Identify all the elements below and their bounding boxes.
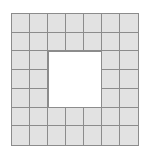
grid-cell-tile — [48, 126, 66, 145]
grid-cell-tile — [102, 70, 120, 89]
grid-cell-tile — [12, 108, 30, 127]
grid-cell-tile — [48, 108, 66, 127]
grid-cell-tile — [120, 89, 138, 108]
grid-cell-tile — [30, 51, 48, 70]
grid-cell-tile — [48, 33, 66, 52]
grid-cell-tile — [12, 70, 30, 89]
grid-cell-tile — [12, 89, 30, 108]
grid-cell-tile — [66, 14, 84, 33]
grid-cell-tile — [66, 108, 84, 127]
grid-cell-hole — [66, 89, 84, 108]
grid-cell-tile — [102, 33, 120, 52]
grid-cell-tile — [84, 108, 102, 127]
grid-cell-hole — [48, 89, 66, 108]
grid-cell-tile — [120, 51, 138, 70]
grid-cell-tile — [30, 89, 48, 108]
grid-cell-tile — [12, 33, 30, 52]
grid-cell-tile — [102, 126, 120, 145]
grid-cell-hole — [48, 51, 66, 70]
grid-cell-hole — [84, 51, 102, 70]
grid-cell-hole — [66, 51, 84, 70]
grid-cell-tile — [120, 14, 138, 33]
grid-cell-tile — [84, 33, 102, 52]
grid-cell-hole — [66, 70, 84, 89]
grid-cell-tile — [30, 14, 48, 33]
grid-cell-tile — [102, 89, 120, 108]
grid-cell-tile — [120, 126, 138, 145]
grid-cell-tile — [120, 33, 138, 52]
grid-cell-tile — [12, 51, 30, 70]
grid-cell-hole — [48, 70, 66, 89]
grid-cell-tile — [30, 70, 48, 89]
grid-cell-tile — [120, 70, 138, 89]
grid-cell-hole — [84, 70, 102, 89]
grid-cell-tile — [12, 14, 30, 33]
grid-cell-tile — [84, 14, 102, 33]
grid-cell-hole — [84, 89, 102, 108]
grid-cell-tile — [102, 14, 120, 33]
grid-cell-tile — [30, 33, 48, 52]
grid-cell-tile — [12, 126, 30, 145]
grid-cell-tile — [48, 14, 66, 33]
grid-cell-tile — [30, 126, 48, 145]
grid-cell-tile — [66, 33, 84, 52]
grid-cell-tile — [120, 108, 138, 127]
grid-cell-tile — [66, 126, 84, 145]
grid-cell-tile — [102, 51, 120, 70]
grid-cell-tile — [84, 126, 102, 145]
tile-frame-figure — [11, 13, 139, 146]
grid-cell-tile — [102, 108, 120, 127]
grid-cell-tile — [30, 108, 48, 127]
tile-grid — [11, 13, 139, 146]
